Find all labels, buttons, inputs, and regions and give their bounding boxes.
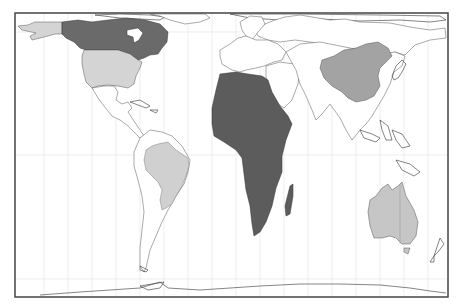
map-canvas <box>0 0 458 308</box>
world-map <box>0 0 458 308</box>
